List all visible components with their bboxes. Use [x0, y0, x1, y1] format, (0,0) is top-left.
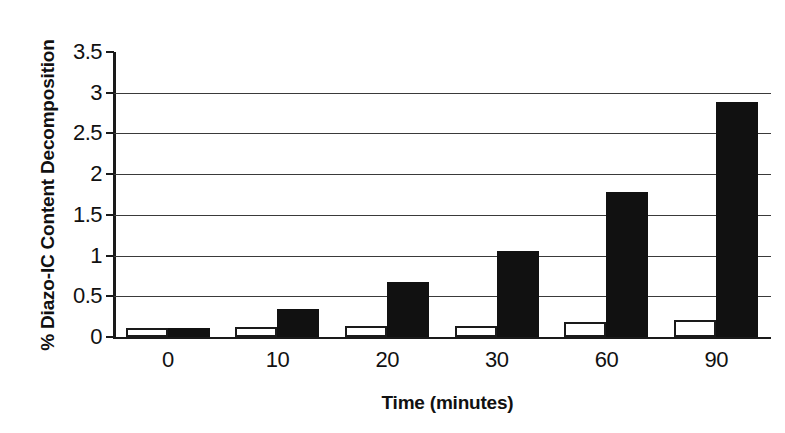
bar-group [552, 52, 662, 337]
bar-white-series-90 [674, 320, 716, 337]
y-tick-label: 1.5 [73, 202, 102, 228]
bar-group [332, 52, 442, 337]
x-axis-title: Time (minutes) [110, 392, 785, 414]
y-tick-label: 0 [90, 324, 102, 350]
bar-black-series-10 [277, 309, 319, 337]
x-tick-label: 0 [162, 347, 174, 373]
bar-black-series-90 [716, 102, 758, 337]
bar-black-series-0 [168, 328, 210, 337]
y-tick-label: 2.5 [73, 120, 102, 146]
bar-group [223, 52, 333, 337]
bar-white-series-20 [345, 326, 387, 337]
bar-black-series-30 [497, 251, 539, 337]
x-tick-label: 60 [595, 347, 618, 373]
bar-white-series-30 [455, 326, 497, 337]
bar-group [661, 52, 771, 337]
bar-white-series-0 [126, 328, 168, 337]
y-tick-label: 2 [90, 161, 102, 187]
bar-group [442, 52, 552, 337]
y-tick-label: 0.5 [73, 283, 102, 309]
bar-group [113, 52, 223, 337]
x-tick-label: 10 [266, 347, 289, 373]
y-tick-label: 1 [90, 243, 102, 269]
bar-white-series-60 [564, 322, 606, 337]
x-axis-line [113, 337, 771, 339]
y-axis-title: % Diazo-IC Content Decomposition [37, 25, 59, 365]
bar-black-series-60 [606, 192, 648, 337]
plot-area: 00.511.522.533.5 [113, 52, 771, 337]
x-tick-label: 20 [375, 347, 398, 373]
x-tick-label: 90 [704, 347, 727, 373]
bar-black-series-20 [387, 282, 429, 337]
x-tick-label: 30 [485, 347, 508, 373]
bar-white-series-10 [235, 327, 277, 337]
y-tick-label: 3 [90, 80, 102, 106]
bar-chart-figure: % Diazo-IC Content Decomposition 00.511.… [0, 0, 785, 433]
y-tick-label: 3.5 [73, 39, 102, 65]
